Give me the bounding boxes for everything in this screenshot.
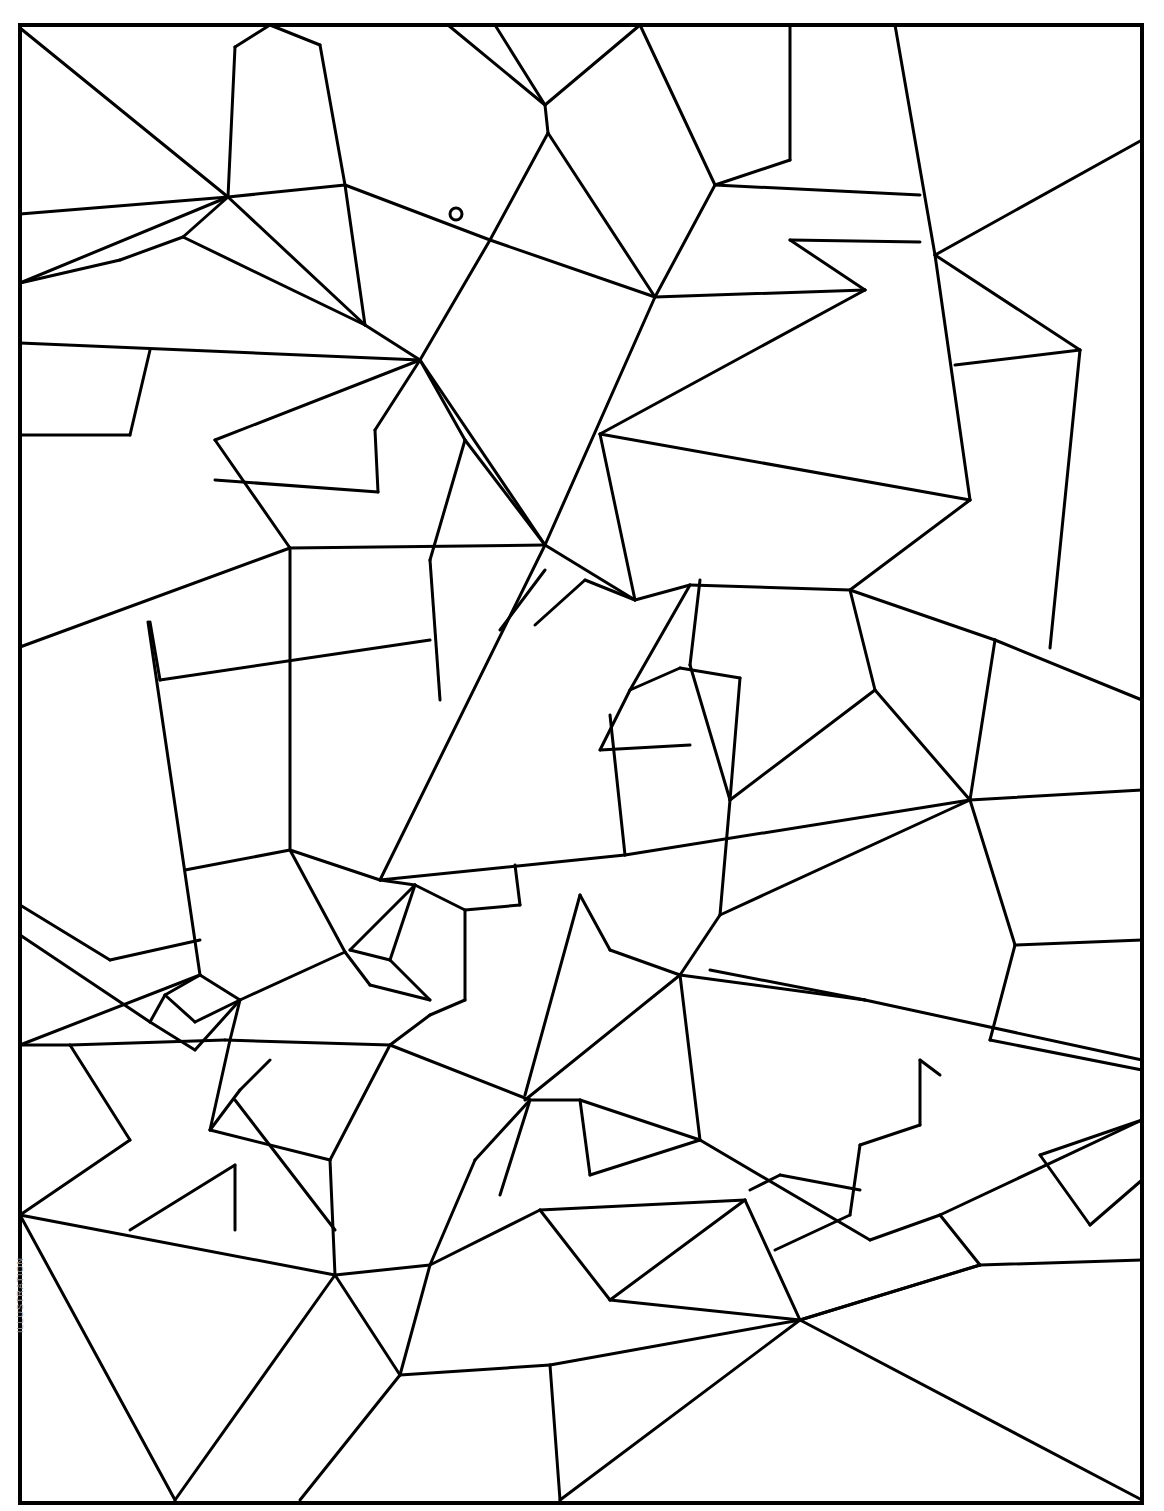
segment-line [970, 640, 995, 800]
segment-line [935, 255, 970, 500]
segment-line [430, 560, 440, 700]
segment-line [495, 25, 545, 105]
segment-line [640, 25, 715, 185]
segment-line [345, 952, 370, 985]
segment-line [780, 1175, 860, 1190]
segment-line [420, 360, 465, 440]
segment-line [860, 1125, 920, 1145]
segment-line [390, 1015, 430, 1045]
segment-line [235, 1100, 335, 1230]
segment-line [545, 297, 655, 545]
segment-line [120, 237, 183, 260]
segment-line [20, 343, 420, 360]
segment-line [130, 1165, 235, 1230]
segment-line [600, 434, 970, 500]
segment-line [875, 690, 970, 800]
segment-line [175, 1275, 335, 1500]
segment-line [600, 690, 630, 750]
segment-line [345, 185, 365, 325]
segment-line [525, 975, 680, 1100]
credit-text: ILLUSTRATION [15, 1095, 25, 1495]
segment-line [420, 240, 490, 360]
segment-line [240, 952, 345, 1000]
segment-line [580, 895, 610, 950]
segment-line [150, 1022, 195, 1050]
coloring-page-artwork [0, 0, 1164, 1511]
segment-line [380, 855, 625, 880]
segment-line [130, 350, 150, 435]
segment-line [185, 850, 290, 870]
segment-line [400, 1265, 430, 1375]
segment-line [110, 940, 200, 960]
segment-line [720, 800, 970, 915]
segment-line [680, 668, 740, 678]
segment-line [430, 440, 465, 560]
segment-line [580, 1100, 590, 1175]
segment-line [375, 430, 378, 492]
segment-line [20, 197, 228, 283]
segment-line [850, 590, 995, 640]
segment-line [540, 1210, 610, 1300]
segment-line [420, 360, 545, 545]
segment-line [535, 580, 585, 625]
segment-line [940, 1215, 980, 1265]
segment-line [590, 1140, 700, 1175]
segment-line [215, 360, 420, 440]
segment-line [1090, 1180, 1142, 1225]
segment-line [380, 880, 415, 885]
segment-line [195, 1000, 240, 1022]
segment-line [690, 585, 850, 590]
segment-line [215, 480, 378, 492]
segment-line [970, 790, 1142, 800]
stained-glass-lines [20, 25, 1142, 1500]
segment-line [335, 1265, 430, 1275]
segment-line [430, 1160, 475, 1265]
segment-line [680, 975, 865, 1000]
segment-line [548, 133, 655, 297]
segment-line [560, 1320, 800, 1500]
segment-line [20, 28, 228, 197]
segment-line [320, 45, 345, 185]
segment-line [228, 185, 345, 197]
small-circle-marker [450, 208, 462, 220]
segment-line [20, 1215, 335, 1275]
segment-line [700, 1140, 870, 1240]
segment-line [183, 197, 228, 237]
segment-line [690, 580, 700, 665]
segment-line [465, 440, 545, 545]
segment-line [400, 1365, 550, 1375]
segment-line [600, 434, 635, 600]
segment-line [545, 25, 640, 105]
segment-line [625, 800, 970, 855]
segment-line [895, 25, 935, 255]
segment-line [850, 500, 970, 590]
segment-line [680, 975, 700, 1140]
segment-line [610, 715, 625, 855]
segment-line [270, 25, 320, 45]
segment-line [330, 1160, 335, 1275]
segment-line [150, 995, 165, 1022]
segment-line [720, 800, 730, 915]
segment-line [775, 1215, 850, 1250]
segment-line [540, 1200, 745, 1210]
segment-line [365, 325, 420, 360]
segment-line [610, 1300, 800, 1320]
segment-line [920, 1060, 940, 1075]
segment-line [465, 905, 520, 910]
segment-line [715, 160, 790, 185]
segment-line [790, 240, 920, 242]
segment-line [600, 290, 865, 434]
segment-line [1040, 1155, 1090, 1225]
segment-line [200, 975, 240, 1000]
segment-line [955, 350, 1080, 365]
segment-line [730, 690, 875, 800]
segment-line [228, 197, 365, 325]
segment-line [335, 1275, 400, 1375]
segment-line [935, 255, 1080, 350]
segment-line [300, 1375, 400, 1500]
segment-line [980, 1260, 1142, 1265]
segment-line [545, 105, 548, 133]
segment-line [1050, 350, 1080, 648]
segment-line [430, 1000, 465, 1015]
segment-line [745, 1200, 800, 1320]
